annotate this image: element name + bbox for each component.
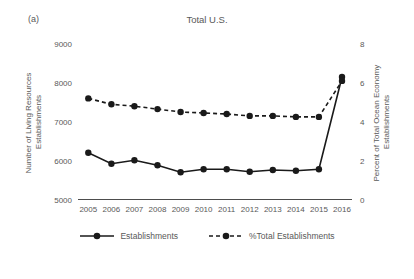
legend-marker-solid-line <box>79 231 115 241</box>
y-tick-label-right: 8 <box>360 40 365 49</box>
legend-label-pct-total-establishments: %Total Establishments <box>249 231 335 241</box>
data-point <box>224 166 230 172</box>
data-point <box>247 113 253 119</box>
chart-figure: (a) Total U.S. Number of Living Resource… <box>0 0 414 279</box>
data-point <box>293 114 299 120</box>
data-point <box>200 110 206 116</box>
x-tick-label: 2009 <box>172 205 190 214</box>
data-point <box>177 109 183 115</box>
x-tick-label: 2007 <box>126 205 144 214</box>
legend-item-establishments: Establishments <box>79 231 178 241</box>
y-axis-title-left: Number of Living Resources Establishment… <box>24 70 43 173</box>
y-tick-label-left: 8000 <box>54 79 72 88</box>
x-tick-label: 2014 <box>287 205 305 214</box>
data-point <box>85 95 91 101</box>
series-layer <box>85 74 345 176</box>
legend-item-pct-total-establishments: %Total Establishments <box>208 231 335 241</box>
data-point <box>224 111 230 117</box>
data-point <box>154 162 160 168</box>
y-tick-label-right: 4 <box>360 118 365 127</box>
series-line-dashed <box>88 81 342 117</box>
legend: Establishments %Total Establishments <box>0 231 414 241</box>
data-point <box>131 157 137 163</box>
data-point <box>339 78 345 84</box>
data-point <box>200 166 206 172</box>
data-point <box>131 103 137 109</box>
x-tick-label: 2016 <box>333 205 351 214</box>
data-point <box>316 114 322 120</box>
data-point <box>270 167 276 173</box>
data-point <box>85 150 91 156</box>
data-point <box>154 106 160 112</box>
y-tick-label-right: 6 <box>360 79 365 88</box>
data-point <box>293 168 299 174</box>
y-axis-ticks-left: 90008000700060005000 <box>54 40 72 205</box>
x-tick-label: 2008 <box>149 205 167 214</box>
x-tick-label: 2012 <box>241 205 259 214</box>
y-tick-label-left: 9000 <box>54 40 72 49</box>
y-axis-ticks-right: 86420 <box>360 40 365 205</box>
x-tick-label: 2010 <box>195 205 213 214</box>
y-tick-label-right: 2 <box>360 157 365 166</box>
data-point <box>270 113 276 119</box>
data-point <box>177 169 183 175</box>
y-tick-label-left: 7000 <box>54 118 72 127</box>
x-tick-label: 2011 <box>218 205 236 214</box>
x-tick-label: 2006 <box>102 205 120 214</box>
legend-marker-dashed-line <box>208 231 244 241</box>
x-tick-label: 2015 <box>310 205 328 214</box>
data-point <box>247 169 253 175</box>
y-tick-label-left: 5000 <box>54 196 72 205</box>
x-tick-label: 2013 <box>264 205 282 214</box>
data-point <box>108 101 114 107</box>
y-tick-label-left: 6000 <box>54 157 72 166</box>
legend-label-establishments: Establishments <box>120 231 178 241</box>
data-point <box>316 166 322 172</box>
y-tick-label-right: 0 <box>360 196 365 205</box>
data-point <box>108 161 114 167</box>
x-axis: 2005200620072008200920102011201220132014… <box>78 200 352 215</box>
x-tick-label: 2005 <box>79 205 97 214</box>
series-line-solid <box>88 77 342 172</box>
y-axis-title-right: Percent of Total Ocean Economy Establish… <box>372 62 391 181</box>
